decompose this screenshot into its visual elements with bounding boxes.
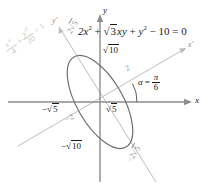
angle-label: α = π 6 bbox=[138, 73, 160, 92]
main-equation: 2x2 + √3xy + y2 − 10 = 0 bbox=[78, 26, 187, 37]
x-prime-axis-label: x′ bbox=[188, 41, 193, 49]
angle-symbol: α bbox=[138, 78, 143, 87]
x-axis-label: x bbox=[195, 96, 199, 105]
sqrt5-radical-positive: √5 bbox=[106, 105, 117, 114]
x-prime-axis bbox=[18, 48, 186, 146]
y-positive-intercept-label: √10 bbox=[103, 46, 119, 55]
y-negative-intercept-label: −√10 bbox=[61, 142, 82, 151]
angle-fraction: π 6 bbox=[152, 73, 161, 92]
equation-xy-term: xy bbox=[117, 25, 127, 37]
sqrt3-radical: √3 bbox=[104, 26, 118, 37]
equation-plus-one: + bbox=[95, 25, 101, 37]
angle-fraction-denominator: 6 bbox=[152, 83, 161, 92]
sqrt10-radical-positive: √10 bbox=[103, 46, 119, 55]
equation-x-exponent: 2 bbox=[88, 24, 91, 31]
x-positive-intercept-label: √5 bbox=[106, 105, 117, 114]
sqrt5-radical-negative: √5 bbox=[47, 105, 58, 114]
equation-constant: − 10 = 0 bbox=[150, 25, 187, 37]
x-negative-intercept-label: −√5 bbox=[42, 105, 59, 114]
x-axis-arrowhead bbox=[184, 99, 192, 105]
y-axis-arrowhead bbox=[97, 14, 103, 22]
equation-y-exponent: 2 bbox=[143, 24, 146, 31]
angle-equals: = bbox=[145, 78, 150, 87]
equation-plus-two: + bbox=[130, 25, 136, 37]
y-prime-axis-label: y′ bbox=[52, 17, 57, 25]
conic-section-figure: 2x2 + √3xy + y2 − 10 = 0 x′2 4 + y′2 20 … bbox=[0, 0, 210, 192]
sqrt10-radical-negative: √10 bbox=[66, 142, 82, 151]
angle-arc bbox=[133, 84, 138, 103]
x-prime-axis-arrowhead bbox=[179, 48, 186, 53]
y-axis-label: y bbox=[103, 6, 107, 15]
